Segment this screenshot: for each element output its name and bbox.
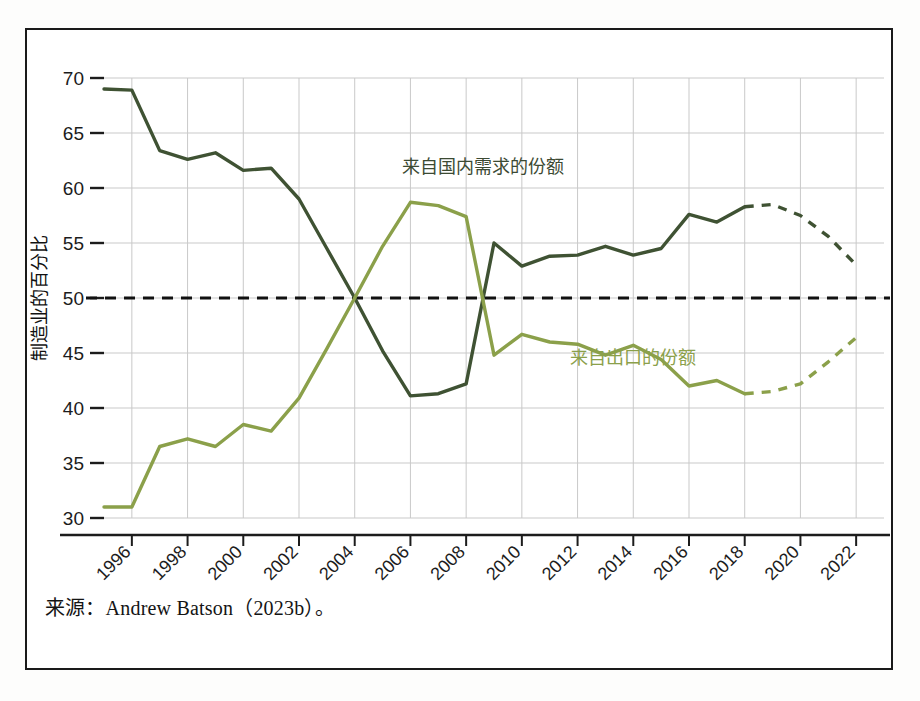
figure-root: 706560555045403530 199619982000200220042… bbox=[0, 0, 920, 701]
figure-border-frame bbox=[25, 28, 893, 670]
source-note: 来源：Andrew Batson（2023b）。 bbox=[45, 592, 335, 621]
